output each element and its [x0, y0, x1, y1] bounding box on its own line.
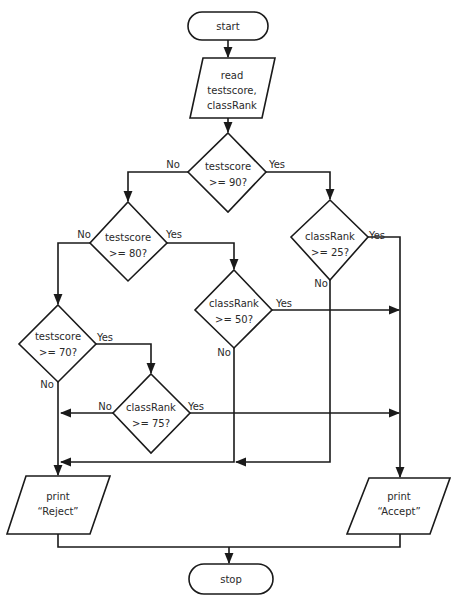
node-read: read testscore, classRank: [190, 58, 275, 118]
decision-classrank-75: classRank >= 75? No Yes: [98, 374, 204, 453]
d50-line-1: classRank: [209, 298, 259, 309]
edge-merge-stop: [58, 534, 400, 547]
d70-line-1: testscore: [35, 331, 81, 342]
d25-line-1: classRank: [305, 231, 355, 242]
decision-testscore-70: testscore >= 70? Yes No: [19, 305, 113, 390]
d75-line-1: classRank: [126, 402, 176, 413]
edge-d70-yes: [96, 344, 151, 373]
read-label-1: read: [221, 70, 244, 81]
edge-d80-yes: [167, 243, 234, 269]
edge-d80-no: [58, 243, 90, 304]
d75-no-label: No: [98, 401, 112, 412]
d25-no-label: No: [314, 278, 328, 289]
edge-d90-yes: [266, 172, 330, 199]
node-reject: print “Reject”: [7, 476, 110, 534]
d70-no-label: No: [40, 379, 54, 390]
d80-line-1: testscore: [105, 232, 151, 243]
d25-yes-label: Yes: [368, 230, 385, 241]
d75-yes-label: Yes: [187, 401, 204, 412]
d25-line-2: >= 25?: [311, 247, 349, 258]
edge-d90-no: [128, 172, 188, 201]
node-accept: print “Accept”: [347, 478, 450, 534]
flowchart: start read testscore, classRank testscor…: [0, 0, 462, 604]
d50-yes-label: Yes: [275, 298, 292, 309]
reject-label-1: print: [46, 491, 70, 502]
d70-yes-label: Yes: [96, 332, 113, 343]
decision-classrank-50: classRank >= 50? Yes No: [195, 270, 292, 358]
edge-d25-yes: [368, 237, 400, 477]
d80-yes-label: Yes: [165, 229, 182, 240]
accept-label-2: “Accept”: [377, 506, 420, 517]
read-label-3: classRank: [207, 100, 257, 111]
stop-label: stop: [220, 574, 242, 585]
decision-testscore-80: testscore >= 80? No Yes: [77, 202, 182, 281]
d90-line-1: testscore: [205, 161, 251, 172]
node-start: start: [188, 12, 268, 40]
d50-no-label: No: [217, 347, 231, 358]
read-label-2: testscore,: [207, 85, 256, 96]
d90-yes-label: Yes: [268, 159, 285, 170]
decision-classrank-25: classRank >= 25? Yes No: [291, 200, 385, 289]
reject-label-2: “Reject”: [37, 506, 78, 517]
d90-line-2: >= 90?: [209, 177, 247, 188]
d90-no-label: No: [166, 159, 180, 170]
d70-line-2: >= 70?: [39, 347, 77, 358]
d80-line-2: >= 80?: [109, 248, 147, 259]
d75-line-2: >= 75?: [132, 418, 170, 429]
node-stop: stop: [189, 564, 273, 594]
d50-line-2: >= 50?: [215, 314, 253, 325]
d80-no-label: No: [77, 229, 91, 240]
start-label: start: [216, 21, 239, 32]
accept-label-1: print: [387, 491, 411, 502]
